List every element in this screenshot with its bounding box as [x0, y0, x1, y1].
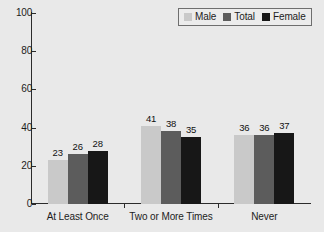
legend-label: Male: [195, 12, 216, 22]
bar: [181, 137, 201, 204]
x-axis-category-label: Never: [218, 211, 311, 222]
x-axis-tick: [218, 204, 219, 208]
legend-swatch-icon: [223, 13, 231, 21]
legend-entry: Female: [262, 12, 306, 22]
legend-entry: Total: [223, 12, 255, 22]
y-axis-tick-label: 60: [6, 84, 32, 94]
bar-value-label: 28: [85, 139, 111, 149]
y-axis-tick-label: 0: [6, 199, 32, 209]
y-axis-tick-label: 40: [6, 123, 32, 133]
bar: [68, 154, 88, 204]
bar: [48, 160, 68, 204]
bar: [88, 151, 108, 204]
x-axis-tick: [124, 204, 125, 208]
bar: [254, 135, 274, 204]
bar-value-label: 35: [178, 125, 204, 135]
x-axis-category-label: Two or More Times: [124, 211, 217, 222]
legend-label: Total: [234, 12, 255, 22]
y-axis-tick-label: 20: [6, 161, 32, 171]
legend-label: Female: [273, 12, 306, 22]
bar-chart: 020406080100 At Least OnceTwo or More Ti…: [0, 0, 324, 232]
legend-swatch-icon: [262, 13, 270, 21]
bar: [141, 126, 161, 204]
bar: [234, 135, 254, 204]
legend-entry: Male: [184, 12, 216, 22]
chart-legend: MaleTotalFemale: [178, 8, 312, 26]
bar: [274, 133, 294, 204]
x-axis-category-label: At Least Once: [31, 211, 124, 222]
y-axis-tick-label: 80: [6, 46, 32, 56]
y-axis-tick: [32, 204, 36, 205]
bars-layer: [31, 13, 311, 204]
bar: [161, 131, 181, 204]
bar-value-label: 37: [271, 121, 297, 131]
y-axis-tick-label: 100: [6, 8, 32, 18]
legend-swatch-icon: [184, 13, 192, 21]
